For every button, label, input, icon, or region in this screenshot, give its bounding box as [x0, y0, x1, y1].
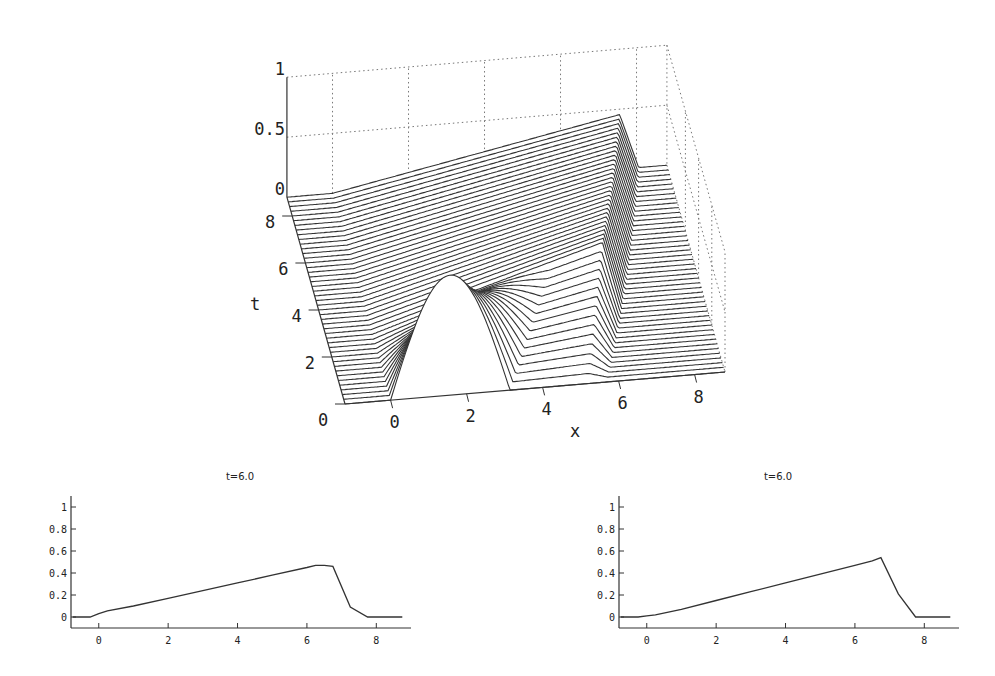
x-tick-label: 2 — [165, 635, 171, 646]
profile-curve — [621, 558, 951, 617]
x-tick-label: 6 — [304, 635, 310, 646]
x-tick-label: 2 — [465, 406, 475, 426]
t-tick-label: 0 — [318, 410, 328, 430]
t-tick-label: 6 — [278, 259, 288, 279]
x-tick-label: 0 — [389, 412, 399, 432]
z-tick-label: 0.5 — [254, 119, 285, 139]
axes: 0246800.20.40.60.81 — [597, 496, 959, 646]
y-tick-label: 0.8 — [49, 524, 67, 535]
y-tick-label: 0 — [61, 612, 67, 623]
t-tick-label: 8 — [265, 212, 275, 232]
axes: 0246800.20.40.60.81 — [49, 496, 411, 646]
plot-title: t=6.0 — [764, 471, 792, 482]
x-tick-label: 4 — [783, 635, 789, 646]
x-tick-label: 0 — [644, 635, 650, 646]
surface-plot-3d: 024680246800.51 x t — [0, 0, 995, 450]
t-axis-label: t — [250, 294, 260, 314]
y-tick-label: 0.2 — [597, 590, 615, 601]
x-tick-label: 0 — [96, 635, 102, 646]
t-tick-label: 2 — [305, 353, 315, 373]
z-tick-label: 1 — [275, 59, 285, 79]
x-tick-label: 8 — [373, 635, 379, 646]
x-tick-label: 6 — [617, 393, 627, 413]
x-axis-label: x — [570, 421, 580, 441]
y-tick-label: 0.4 — [49, 568, 67, 579]
x-tick-label: 4 — [541, 399, 551, 419]
plot-title: t=6.0 — [226, 471, 254, 482]
y-tick-label: 0.6 — [597, 546, 615, 557]
y-tick-label: 0 — [609, 612, 615, 623]
profile-curve — [73, 565, 403, 617]
y-tick-label: 1 — [61, 502, 67, 513]
x-tick-label: 2 — [713, 635, 719, 646]
y-tick-label: 0.8 — [597, 524, 615, 535]
y-tick-label: 0.4 — [597, 568, 615, 579]
profile-plot-right: t=6.0 0246800.20.40.60.81 — [560, 450, 980, 660]
profile-plot-left: t=6.0 0246800.20.40.60.81 — [30, 450, 450, 660]
x-tick-label: 8 — [921, 635, 927, 646]
x-tick-label: 6 — [852, 635, 858, 646]
y-tick-label: 0.6 — [49, 546, 67, 557]
x-tick-label: 4 — [235, 635, 241, 646]
z-tick-label: 0 — [275, 179, 285, 199]
waterfall-slices — [287, 115, 725, 404]
y-tick-label: 0.2 — [49, 590, 67, 601]
y-tick-label: 1 — [609, 502, 615, 513]
t-tick-label: 4 — [291, 306, 301, 326]
x-tick-label: 8 — [693, 387, 703, 407]
